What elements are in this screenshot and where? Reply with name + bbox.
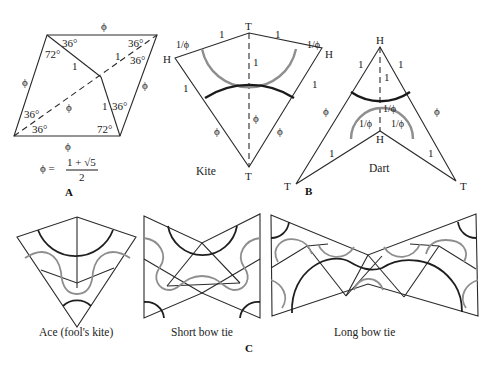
edge-label-bottom: ϕ xyxy=(65,140,71,152)
edge-label-right: ϕ xyxy=(142,79,148,91)
kite-vertex-left: H xyxy=(163,53,171,65)
lbt-right-line-b xyxy=(404,246,439,297)
dart-vertex-top: H xyxy=(376,34,384,46)
lbt-gray-tl-loop xyxy=(275,239,312,262)
dart-label-lower-right: ϕ xyxy=(434,105,440,117)
dart-label-bottom-left: 1 xyxy=(329,147,335,159)
kite-vertex-bottom: T xyxy=(245,170,252,182)
lbt-dark-corner-tl xyxy=(271,222,289,238)
ace-lower-dark-arc xyxy=(63,300,91,306)
kite-label-right-upper: 1 xyxy=(312,78,318,90)
inner-label-upper: 1 xyxy=(72,60,78,72)
kite-vertex-right: H xyxy=(325,48,333,60)
dart-label-upper-right: 1 xyxy=(398,58,404,70)
kite-label-axis-lower: ϕ xyxy=(253,112,259,124)
formula-numerator: 1 + √5 xyxy=(67,156,96,168)
panel-label-c: C xyxy=(245,342,253,354)
lbt-gray-top-left xyxy=(318,244,354,257)
kite-vertex-top: T xyxy=(245,20,252,32)
kite-label-tr-short: 1/ϕ xyxy=(307,39,320,50)
sbt-inner-base xyxy=(167,283,240,286)
dart-caption: Dart xyxy=(369,162,390,174)
diagonal-dashed xyxy=(14,35,157,136)
diagonal-label-upper: 1 xyxy=(115,50,121,62)
edge-label-left: ϕ xyxy=(22,76,28,88)
formula-denominator: 2 xyxy=(79,171,85,183)
dart-label-bottom-right: 1 xyxy=(428,147,434,159)
panel-label-b: B xyxy=(305,185,313,197)
short-bow-tie-caption: Short bow tie xyxy=(171,326,233,338)
dart-label-axis-upper: 1 xyxy=(384,71,390,83)
dart-label-inner-left: 1/ϕ xyxy=(359,118,372,129)
edge-label-top: ϕ xyxy=(101,20,107,32)
ace-fools-kite: Ace (fool's kite) xyxy=(17,217,136,339)
kite-caption: Kite xyxy=(196,165,216,177)
angle-bl-lower: 36° xyxy=(32,123,47,135)
panel-b-dart: H T T H 1 1 1 1/ϕ 1/ϕ 1/ϕ ϕ ϕ 1 1 Dart xyxy=(284,34,467,192)
dart-label-inner-right: 1/ϕ xyxy=(391,118,404,129)
panel-a-rhombus: ϕ ϕ ϕ ϕ 1 1 1 ϕ 36° 72° 36° 36° 36° 36° … xyxy=(14,20,157,198)
ace-upper-dark-arc xyxy=(38,230,113,256)
lbt-dark-wave xyxy=(292,259,462,313)
angle-br-upper: 36° xyxy=(112,100,127,112)
long-bow-tie-caption: Long bow tie xyxy=(334,326,395,339)
dart-label-axis-lower: 1/ϕ xyxy=(383,103,396,114)
penrose-tiles-figure: ϕ ϕ ϕ ϕ 1 1 1 ϕ 36° 72° 36° 36° 36° 36° … xyxy=(0,0,484,370)
kite-label-left-lower: ϕ xyxy=(214,125,220,137)
rhombus-outline xyxy=(14,35,157,136)
kite-label-right-lower: ϕ xyxy=(277,125,283,137)
kite-label-left-upper: 1 xyxy=(183,82,189,94)
angle-bl-upper: 36° xyxy=(24,108,39,120)
short-bow-tie: Short bow tie xyxy=(144,214,260,338)
lbt-gray-left-lower xyxy=(271,280,285,308)
inner-label-lower: 1 xyxy=(102,100,108,112)
angle-tr-upper: 36° xyxy=(128,37,143,49)
sbt-line-1 xyxy=(144,259,202,293)
lbt-dark-corner-tr xyxy=(458,222,476,238)
dart-vertex-left: T xyxy=(284,180,291,192)
lbt-gray-top-right xyxy=(384,244,420,257)
angle-tr-lower: 36° xyxy=(130,54,145,66)
formula-lhs: ϕ = xyxy=(40,162,55,174)
panel-label-a: A xyxy=(65,186,73,198)
kite-label-tl-long: 1 xyxy=(219,28,225,40)
diagonal-label-lower: ϕ xyxy=(66,101,72,113)
sbt-dark-arc-bl xyxy=(144,302,164,318)
dart-label-lower-left: ϕ xyxy=(323,105,329,117)
angle-tl-lower: 72° xyxy=(45,48,60,60)
sbt-inner-peak xyxy=(167,243,240,286)
ace-caption: Ace (fool's kite) xyxy=(39,326,113,339)
kite-label-axis-upper: 1 xyxy=(253,56,259,68)
golden-ratio-formula: ϕ = 1 + √5 2 xyxy=(40,156,98,183)
kite-label-tr-long: 1 xyxy=(275,28,281,40)
kite-label-tl-short: 1/ϕ xyxy=(176,39,189,50)
sbt-dark-arc-br xyxy=(240,302,260,318)
angle-tl-upper: 36° xyxy=(62,37,77,49)
dart-vertex-inner: H xyxy=(376,133,384,145)
lbt-gray-right-lower xyxy=(463,280,478,308)
long-bow-tie: Long bow tie xyxy=(271,214,478,339)
sbt-line-2 xyxy=(202,259,260,293)
angle-br-lower: 72° xyxy=(97,123,112,135)
panel-b-kite: T H H T 1/ϕ 1 1 1/ϕ 1 ϕ 1 1 ϕ ϕ Kite xyxy=(163,20,333,182)
sbt-gray-curve xyxy=(144,238,260,290)
dart-vertex-right: T xyxy=(460,180,467,192)
dart-label-upper-left: 1 xyxy=(358,58,364,70)
